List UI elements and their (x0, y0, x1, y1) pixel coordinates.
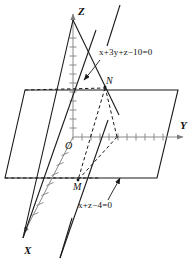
point-n-dot (104, 86, 107, 89)
plane-2-equation-label: x+z−4=0 (78, 201, 112, 210)
diagram-svg (0, 0, 193, 262)
axis-label-y: Y (180, 120, 187, 131)
figure-canvas: Z Y X O N M x+3y+z−10=0 x+z−4=0 (0, 0, 193, 262)
point-yfoot-dot (116, 136, 119, 139)
origin-label: O (65, 141, 72, 151)
axis-label-x: X (24, 245, 31, 256)
trace-xz-plane-1 (23, 20, 73, 238)
plane-1-equation-label: x+3y+z−10=0 (99, 48, 153, 57)
dash-n-to-yaxis (105, 87, 117, 137)
trace-yz-plane-1 (73, 20, 119, 115)
segment-plane-2-lower (60, 218, 72, 258)
point-label-m: M (73, 182, 81, 192)
x-axis (24, 137, 73, 233)
leader-plane-2 (108, 178, 120, 200)
axis-label-z: Z (78, 6, 85, 17)
point-label-n: N (106, 76, 113, 86)
segment-plane-2-upper (107, 5, 120, 46)
plane-2-traces (5, 5, 120, 258)
